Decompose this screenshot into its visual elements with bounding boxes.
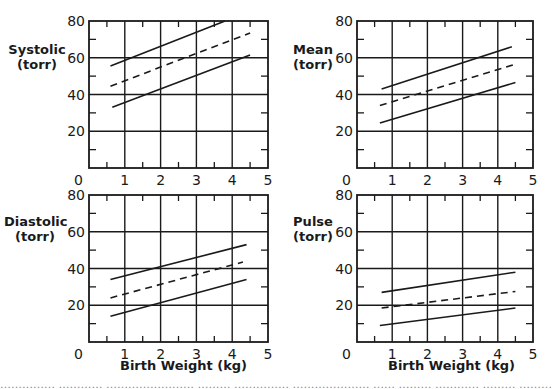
y-tick-label: 40 bbox=[335, 87, 353, 103]
series-line-mean bbox=[110, 33, 250, 86]
x-tick-label: 2 bbox=[156, 346, 165, 362]
x-tick-label: 4 bbox=[228, 346, 237, 362]
y-tick-label: 40 bbox=[67, 261, 85, 277]
series-line-mean bbox=[380, 64, 516, 105]
x-tick-label: 3 bbox=[458, 172, 467, 188]
series-line-lower bbox=[112, 55, 250, 107]
y-tick-label: 40 bbox=[335, 261, 353, 277]
x-tick-label: 3 bbox=[192, 346, 201, 362]
series-line-upper bbox=[110, 21, 225, 66]
x-tick-label: 5 bbox=[529, 172, 538, 188]
x-tick-label: 5 bbox=[529, 346, 538, 362]
series-line-lower bbox=[110, 280, 246, 317]
series-line-upper bbox=[110, 245, 246, 280]
series-line-upper bbox=[382, 47, 512, 89]
y-tick-label: 60 bbox=[67, 224, 85, 240]
y-tick-label: 20 bbox=[335, 297, 353, 313]
x-tick-label: 0 bbox=[74, 346, 83, 362]
x-tick-label: 4 bbox=[228, 172, 237, 188]
series-line-lower bbox=[380, 83, 516, 123]
y-tick-label: 60 bbox=[335, 224, 353, 240]
y-tick-label: 80 bbox=[335, 187, 353, 203]
x-tick-label: 4 bbox=[493, 346, 502, 362]
x-tick-label: 1 bbox=[120, 172, 129, 188]
y-tick-label: 60 bbox=[67, 50, 85, 66]
y-tick-label: 60 bbox=[335, 50, 353, 66]
x-tick-label: 5 bbox=[264, 346, 273, 362]
y-tick-label: 20 bbox=[335, 123, 353, 139]
series-line-lower bbox=[380, 308, 516, 325]
x-tick-label: 1 bbox=[388, 172, 397, 188]
x-tick-label: 0 bbox=[74, 172, 83, 188]
x-tick-label: 2 bbox=[156, 172, 165, 188]
x-tick-label: 3 bbox=[458, 346, 467, 362]
y-tick-label: 80 bbox=[67, 187, 85, 203]
x-tick-label: 0 bbox=[342, 346, 351, 362]
y-tick-label: 20 bbox=[67, 123, 85, 139]
x-tick-label: 1 bbox=[388, 346, 397, 362]
series-line-upper bbox=[382, 272, 516, 292]
figure-caption-fragment: …………… ………… …………………… ……… …………… ………………… ……… bbox=[0, 380, 552, 389]
y-tick-label: 40 bbox=[67, 87, 85, 103]
x-tick-label: 4 bbox=[493, 172, 502, 188]
chart-canvas: 2040608001234520406080012345204060800123… bbox=[0, 0, 552, 389]
x-tick-label: 5 bbox=[264, 172, 273, 188]
series-line-mean bbox=[110, 262, 242, 298]
x-tick-label: 2 bbox=[423, 172, 432, 188]
y-tick-label: 80 bbox=[67, 13, 85, 29]
x-tick-label: 2 bbox=[423, 346, 432, 362]
x-tick-label: 1 bbox=[120, 346, 129, 362]
y-tick-label: 20 bbox=[67, 297, 85, 313]
x-tick-label: 3 bbox=[192, 172, 201, 188]
x-tick-label: 0 bbox=[342, 172, 351, 188]
y-tick-label: 80 bbox=[335, 13, 353, 29]
